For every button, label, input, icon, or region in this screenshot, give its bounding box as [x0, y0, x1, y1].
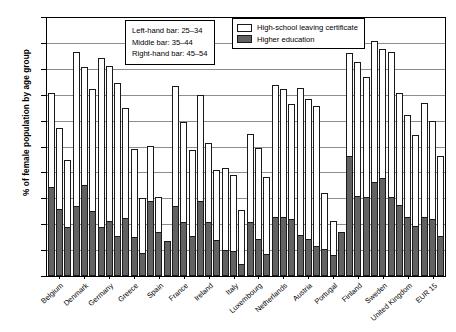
bar-slot: [81, 18, 88, 276]
bar-key-line-3: Right-hand bar: 45–54: [132, 48, 208, 60]
bar-higher-education: [263, 254, 270, 276]
bar-key-annotation: Left-hand bar: 25–34 Middle bar: 35–44 R…: [125, 20, 215, 65]
x-tick-mark: [209, 276, 210, 279]
x-tick: Finland: [346, 279, 371, 331]
bar-group: [420, 18, 445, 276]
bar-slot: [73, 18, 80, 276]
x-tick: United Kingdom: [395, 279, 420, 331]
y-axis-label: % of female population by age group: [22, 0, 31, 253]
bar-higher-education: [371, 182, 378, 276]
bar-higher-education: [255, 239, 262, 276]
x-tick: Spain: [147, 279, 172, 331]
x-tick-mark: [383, 276, 384, 279]
bar-group: [370, 18, 395, 276]
bar-higher-education: [238, 264, 245, 276]
legend-item-higher-education: Higher education: [237, 34, 358, 46]
legend: High-school leaving certificate Higher e…: [232, 18, 365, 49]
bar-higher-education: [313, 246, 320, 276]
bar-group: [97, 18, 122, 276]
x-tick-mark: [159, 276, 160, 279]
x-tick-label: Ireland: [192, 281, 215, 303]
bar-higher-education: [147, 201, 154, 276]
bar-higher-education: [305, 239, 312, 276]
x-tick: Germany: [97, 279, 122, 331]
bar-higher-education: [363, 197, 370, 276]
bar-higher-education: [213, 240, 220, 276]
legend-label-higher-education: Higher education: [257, 34, 314, 46]
bar-higher-education: [429, 219, 436, 276]
bar-higher-education: [114, 236, 121, 276]
x-tick: France: [171, 279, 196, 331]
bar-slot: [280, 18, 287, 276]
bar-slot: [346, 18, 353, 276]
bar-slot: [48, 18, 55, 276]
bar-higher-education: [64, 227, 71, 276]
x-tick-mark: [283, 276, 284, 279]
bar-higher-education: [189, 236, 196, 276]
bar-higher-education: [155, 232, 162, 276]
bar-group: [221, 18, 246, 276]
bar-higher-education: [81, 185, 88, 276]
legend-item-high-school: High-school leaving certificate: [237, 22, 358, 34]
bar-higher-education: [354, 196, 361, 276]
bar-higher-education: [396, 205, 403, 276]
bar-slot: [230, 18, 237, 276]
bar-slot: [263, 18, 270, 276]
bar-higher-education: [346, 156, 353, 276]
bar-slot: [98, 18, 105, 276]
bar-higher-education: [139, 253, 146, 276]
bar-higher-education: [404, 217, 411, 276]
chart-root: % of female population by age group 0102…: [0, 0, 456, 332]
bar-group: [395, 18, 420, 276]
bar-higher-education: [48, 187, 55, 276]
x-axis-labels: BelgiumDenmarkGermanyGreeceSpainFranceIr…: [47, 279, 445, 331]
bar-slot: [247, 18, 254, 276]
x-tick: EUR 15: [420, 279, 445, 331]
x-tick-mark: [358, 276, 359, 279]
x-tick-mark: [234, 276, 235, 279]
bar-higher-education: [122, 218, 129, 276]
bar-slot: [404, 18, 411, 276]
bar-higher-education: [288, 219, 295, 276]
bar-higher-education: [321, 249, 328, 276]
bar-slot: [114, 18, 121, 276]
x-tick-mark: [433, 276, 434, 279]
bar-slot: [388, 18, 395, 276]
legend-label-high-school: High-school leaving certificate: [257, 22, 358, 34]
bar-higher-education: [56, 209, 63, 276]
x-tick-mark: [109, 276, 110, 279]
x-tick-label: Spain: [145, 281, 165, 300]
bar-slot: [106, 18, 113, 276]
bar-higher-education: [412, 226, 419, 276]
bar-higher-education: [272, 217, 279, 276]
bar-slot: [437, 18, 444, 276]
bar-higher-education: [388, 197, 395, 276]
bar-slot: [379, 18, 386, 276]
x-tick: Greece: [122, 279, 147, 331]
bar-higher-education: [89, 211, 96, 276]
bar-higher-education: [338, 232, 345, 276]
bar-group: [296, 18, 321, 276]
x-tick: Portugal: [321, 279, 346, 331]
x-tick: Ireland: [196, 279, 221, 331]
bar-slot: [429, 18, 436, 276]
bar-slot: [288, 18, 295, 276]
bar-slot: [305, 18, 312, 276]
bar-slot: [222, 18, 229, 276]
bar-higher-education: [421, 217, 428, 276]
bar-key-line-2: Middle bar: 35–44: [132, 37, 208, 49]
bar-slot: [363, 18, 370, 276]
bar-key-line-1: Left-hand bar: 25–34: [132, 25, 208, 37]
bar-higher-education: [379, 178, 386, 276]
bar-slot: [89, 18, 96, 276]
bar-slot: [255, 18, 262, 276]
bar-slot: [313, 18, 320, 276]
bar-groups: [47, 18, 445, 276]
bar-higher-education: [73, 206, 80, 276]
x-tick-mark: [134, 276, 135, 279]
x-tick: Netherlands: [271, 279, 296, 331]
x-tick-mark: [184, 276, 185, 279]
x-tick-mark: [84, 276, 85, 279]
x-tick-mark: [408, 276, 409, 279]
bar-higher-education: [230, 251, 237, 276]
